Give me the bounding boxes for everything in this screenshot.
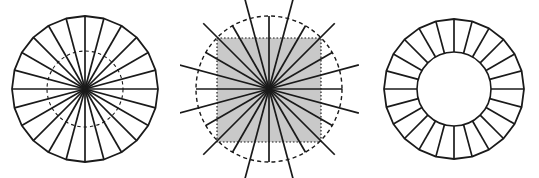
spoke-line [436, 125, 445, 157]
spoke-line [405, 115, 428, 138]
spoke-group [180, 0, 359, 178]
spoke-line [419, 28, 436, 57]
spoke-line [480, 115, 503, 138]
spoke-line [473, 121, 490, 150]
panel-b-dashed-circle-with-shaded-square [180, 0, 360, 178]
figure-panel [0, 0, 539, 178]
panel-a-polygonal-spoked-disc [0, 0, 180, 178]
spoke-line [464, 125, 473, 157]
inner-hole-circle [417, 52, 491, 126]
spoke-line [490, 71, 522, 80]
spoke-line [393, 108, 422, 125]
spoke-line [480, 40, 503, 63]
spoke-line [405, 40, 428, 63]
spoke-line [419, 121, 436, 150]
spoke-line [473, 28, 490, 57]
spoke-line [490, 99, 522, 108]
spoke-line [486, 54, 515, 71]
spoke-group [12, 16, 158, 162]
panel-c-annulus-radial-segments [360, 0, 539, 178]
spoke-line [464, 21, 473, 53]
spoke-line [386, 99, 418, 108]
spoke-line [436, 21, 445, 53]
spoke-line [393, 54, 422, 71]
spoke-line [386, 71, 418, 80]
spoke-line [486, 108, 515, 125]
